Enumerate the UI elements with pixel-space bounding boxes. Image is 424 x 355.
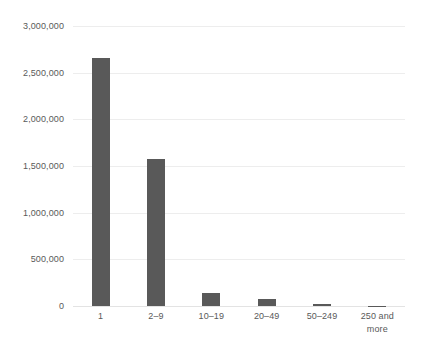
x-axis-tick-label: 50–249 — [294, 310, 349, 323]
bar-slot — [294, 26, 349, 306]
plot-area — [73, 26, 405, 306]
bar-slot — [128, 26, 183, 306]
bar[interactable] — [258, 299, 276, 306]
x-axis-tick-label: 2–9 — [128, 310, 183, 323]
y-axis-tick-label: 0 — [0, 301, 64, 311]
x-axis-tick-label: 250 and more — [350, 310, 405, 336]
x-axis-tick-label: 1 — [73, 310, 128, 323]
bar-slot — [350, 26, 405, 306]
y-axis: 0500,0001,000,0001,500,0002,000,0002,500… — [0, 0, 64, 355]
bar[interactable] — [147, 159, 165, 306]
y-axis-tick-label: 1,000,000 — [0, 208, 64, 218]
bar[interactable] — [202, 293, 220, 306]
x-axis-tick-label: 10–19 — [184, 310, 239, 323]
bar-slot — [73, 26, 128, 306]
y-axis-tick-label: 1,500,000 — [0, 161, 64, 171]
axis-line-zero — [73, 306, 405, 307]
x-axis: 12–910–1920–4950–249250 and more — [73, 310, 405, 355]
bar-slot — [239, 26, 294, 306]
x-axis-tick-label: 20–49 — [239, 310, 294, 323]
y-axis-tick-label: 2,500,000 — [0, 68, 64, 78]
y-axis-tick-label: 500,000 — [0, 254, 64, 264]
y-axis-tick-label: 2,000,000 — [0, 114, 64, 124]
bar[interactable] — [313, 304, 331, 306]
bar-chart: 0500,0001,000,0001,500,0002,000,0002,500… — [0, 0, 424, 355]
bar-slot — [184, 26, 239, 306]
bar[interactable] — [92, 58, 110, 306]
y-axis-tick-label: 3,000,000 — [0, 21, 64, 31]
